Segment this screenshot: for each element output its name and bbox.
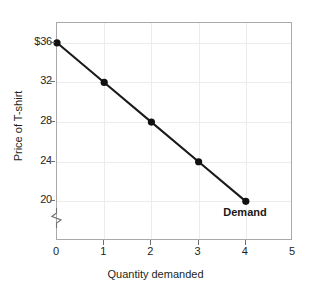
x-axis-tick-label: 0	[42, 245, 70, 257]
demand-curve-chart: $3632282420 Price of T-shirt 012345 Quan…	[0, 0, 311, 294]
y-axis-tick-label: 20	[6, 194, 52, 205]
x-axis-tick-label: 2	[136, 245, 164, 257]
x-axis-tick-label: 5	[278, 245, 306, 257]
y-axis-title: Price of T-shirt	[12, 61, 24, 191]
y-axis-tick-label: $36	[6, 36, 52, 47]
x-axis-tick-label: 4	[231, 245, 259, 257]
y-axis-tick-mark	[50, 121, 55, 122]
y-axis-tick-mark	[50, 161, 55, 162]
demand-curve-label: Demand	[214, 206, 276, 218]
data-point-marker	[53, 39, 60, 46]
data-point-marker	[242, 198, 249, 205]
x-axis-tick-label: 1	[89, 245, 117, 257]
y-axis-tick-mark	[50, 42, 55, 43]
y-axis-tick-mark	[50, 200, 55, 201]
x-axis-title: Quantity demanded	[0, 268, 311, 281]
x-axis-tick-label: 3	[184, 245, 212, 257]
data-point-marker	[101, 79, 108, 86]
data-point-marker	[195, 158, 202, 165]
y-axis-break-icon	[51, 208, 63, 228]
y-axis-tick-mark	[50, 81, 55, 82]
data-point-marker	[148, 118, 155, 125]
